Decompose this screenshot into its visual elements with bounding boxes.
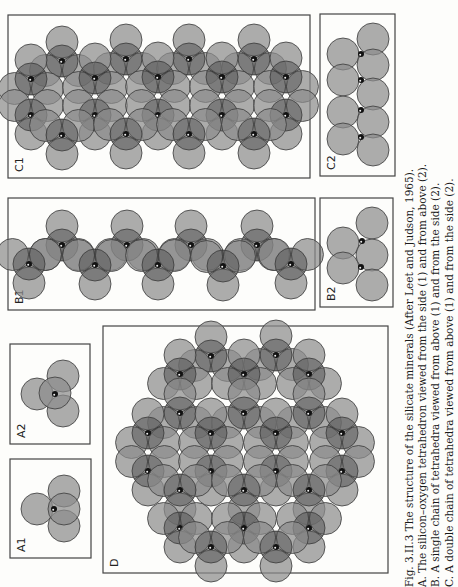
caption-b: B. A single chain of tetrahedra viewed f… xyxy=(429,0,442,587)
silicon-atom xyxy=(220,263,226,269)
silicon-atom xyxy=(358,51,364,57)
silicon-atom xyxy=(358,264,364,270)
silicon-atom xyxy=(177,371,183,377)
silicon-atom xyxy=(208,353,214,359)
silicon-atom xyxy=(251,56,257,62)
silicon-atom xyxy=(359,238,365,244)
panel-a2: A2 xyxy=(10,344,90,444)
silicon-atom xyxy=(123,131,129,137)
panel-label: A2 xyxy=(15,423,28,438)
silicon-atom xyxy=(186,131,192,137)
silicon-atom xyxy=(358,77,364,83)
silicon-atom xyxy=(52,391,58,397)
silicon-atom xyxy=(177,487,183,493)
silicon-atom xyxy=(288,261,294,267)
panel-b1: B1 xyxy=(0,198,323,310)
silicon-atom xyxy=(208,544,214,550)
silicon-atom xyxy=(306,410,312,416)
silicon-atom xyxy=(155,74,161,80)
silicon-atom xyxy=(273,430,279,436)
silicon-atom xyxy=(306,371,312,377)
silicon-atom xyxy=(254,242,260,248)
silicon-atom xyxy=(208,430,214,436)
oxygen-atom xyxy=(327,252,359,284)
silicon-atom xyxy=(273,352,279,358)
silicate-structure-figure: A1A2B1B2C1C2D xyxy=(0,0,458,587)
panel-a1: A1 xyxy=(10,459,91,558)
oxygen-atom xyxy=(356,207,388,239)
caption-title: Fig. 3.II.3 The structure of the silicat… xyxy=(403,0,416,587)
panel-label: C2 xyxy=(325,155,338,170)
silicon-atom xyxy=(155,262,161,268)
panel-c1: C1 xyxy=(0,15,318,178)
silicon-atom xyxy=(186,56,192,62)
panel-c2: C2 xyxy=(320,14,395,176)
panel-label: D xyxy=(108,559,121,567)
panel-label: A1 xyxy=(15,537,28,552)
panel-d: D xyxy=(103,320,388,582)
oxygen-atom xyxy=(327,123,359,155)
silicon-atom xyxy=(59,132,65,138)
silicon-atom xyxy=(273,544,279,550)
panel-label: C1 xyxy=(13,157,26,172)
silicon-atom xyxy=(59,58,65,64)
silicon-atom xyxy=(92,262,98,268)
silicon-atom xyxy=(251,131,257,137)
silicon-atom xyxy=(283,74,289,80)
silicon-atom xyxy=(241,371,247,377)
caption-a: A. The silicon–oxygen tetrahedron viewed… xyxy=(416,0,429,587)
silicon-atom xyxy=(339,430,345,436)
silicon-atom xyxy=(358,134,364,140)
silicon-atom xyxy=(188,242,194,248)
panel-label: B2 xyxy=(325,286,338,301)
silicon-atom xyxy=(145,430,151,436)
silicon-atom xyxy=(219,74,225,80)
silicon-atom xyxy=(92,75,98,81)
silicon-atom xyxy=(28,76,34,82)
oxygen-atom xyxy=(356,269,388,301)
silicon-atom xyxy=(358,107,364,113)
silicon-atom xyxy=(306,487,312,493)
oxygen-atom xyxy=(327,64,359,96)
silicon-atom xyxy=(123,56,129,62)
caption-c: C. A double chain of tetrahedra viewed f… xyxy=(443,0,456,587)
figure-caption: Fig. 3.II.3 The structure of the silicat… xyxy=(403,0,456,587)
silicon-atom xyxy=(26,261,32,267)
panel-b2: B2 xyxy=(320,198,393,307)
silicon-atom xyxy=(241,487,247,493)
silicon-atom xyxy=(241,410,247,416)
silicon-atom xyxy=(51,506,57,512)
silicon-atom xyxy=(177,410,183,416)
